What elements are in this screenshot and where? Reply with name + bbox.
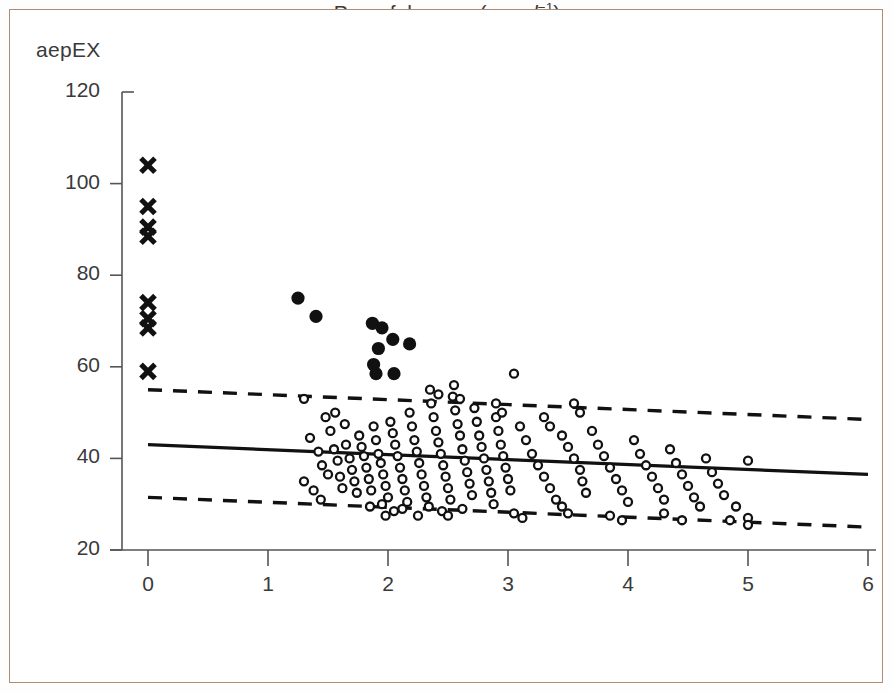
filled-circle-marker <box>291 292 304 305</box>
open-circle-marker <box>576 409 584 417</box>
open-circle-marker <box>418 470 426 478</box>
open-circle-marker <box>360 452 368 460</box>
open-circle-marker <box>487 489 495 497</box>
open-circle-marker <box>425 502 433 510</box>
open-circle-marker <box>350 477 358 485</box>
open-circle-marker <box>466 480 474 488</box>
open-circle-marker <box>324 470 332 478</box>
open-circle-marker <box>382 482 390 490</box>
filled-circle-marker <box>403 337 416 350</box>
open-circle-marker <box>485 477 493 485</box>
open-circle-marker <box>326 427 334 435</box>
open-circle-marker <box>413 448 421 456</box>
open-circle-marker <box>630 436 638 444</box>
open-circle-marker <box>497 441 505 449</box>
x-tick-label-0: 0 <box>128 572 168 596</box>
open-circle-marker <box>690 493 698 501</box>
open-circle-marker <box>379 470 387 478</box>
open-circle-marker <box>358 443 366 451</box>
cross-marker <box>141 321 155 335</box>
open-circle-marker <box>654 484 662 492</box>
open-circle-marker <box>355 432 363 440</box>
open-circle-marker <box>391 441 399 449</box>
open-circle-marker <box>365 475 373 483</box>
open-circle-marker <box>372 436 380 444</box>
open-circle-marker <box>451 406 459 414</box>
open-circle-marker <box>570 454 578 462</box>
cross-marker-points-group <box>141 158 155 378</box>
open-circle-marker <box>415 459 423 467</box>
y-tick-label-120: 120 <box>40 78 100 102</box>
open-circle-marker <box>672 459 680 467</box>
open-circle-marker <box>348 466 356 474</box>
open-circle-marker <box>473 418 481 426</box>
open-circle-marker <box>330 445 338 453</box>
open-circle-marker <box>353 489 361 497</box>
open-circle-marker <box>450 381 458 389</box>
open-circle-marker <box>475 432 483 440</box>
open-circle-marker <box>594 441 602 449</box>
open-circle-marker <box>528 450 536 458</box>
open-circle-marker <box>498 409 506 417</box>
open-circle-marker <box>442 473 450 481</box>
y-tick-label-100: 100 <box>40 170 100 194</box>
open-circle-marker <box>696 502 704 510</box>
open-circle-marker <box>377 459 385 467</box>
open-circle-marker <box>331 409 339 417</box>
figure-panel: aepEX Propofol concn (μg ml−1) 204060801… <box>0 0 894 694</box>
open-circle-marker <box>367 486 375 494</box>
open-circle-marker <box>468 491 476 499</box>
x-tick-label-6: 6 <box>848 572 888 596</box>
open-circle-marker <box>370 422 378 430</box>
open-circle-marker <box>564 509 572 517</box>
open-circle-marker <box>362 464 370 472</box>
open-circle-marker <box>456 432 464 440</box>
filled-circle-marker <box>375 321 388 334</box>
open-circle-marker <box>390 507 398 515</box>
open-circle-marker <box>732 502 740 510</box>
open-circle-marker <box>480 454 488 462</box>
tick-marks-group <box>110 184 868 566</box>
open-circle-marker <box>437 450 445 458</box>
cross-marker <box>141 229 155 243</box>
y-tick-label-80: 80 <box>40 261 100 285</box>
open-circle-marker <box>606 512 614 520</box>
filled-circle-marker <box>386 333 399 346</box>
open-circle-marker <box>642 461 650 469</box>
open-circle-marker <box>420 482 428 490</box>
open-circle-points-group <box>300 370 752 529</box>
open-circle-marker <box>546 422 554 430</box>
open-circle-marker <box>338 484 346 492</box>
open-circle-marker <box>342 441 350 449</box>
open-circle-marker <box>408 422 416 430</box>
open-circle-marker <box>317 496 325 504</box>
open-circle-marker <box>434 390 442 398</box>
open-circle-marker <box>318 461 326 469</box>
open-circle-marker <box>426 386 434 394</box>
open-circle-marker <box>482 466 490 474</box>
filled-circle-points-group <box>291 292 416 381</box>
open-circle-marker <box>458 445 466 453</box>
open-circle-marker <box>618 486 626 494</box>
open-circle-marker <box>600 452 608 460</box>
open-circle-marker <box>578 477 586 485</box>
x-tick-label-1: 1 <box>248 572 288 596</box>
open-circle-marker <box>510 509 518 517</box>
cross-marker <box>141 200 155 214</box>
open-circle-marker <box>714 480 722 488</box>
cross-marker <box>141 158 155 172</box>
open-circle-marker <box>396 464 404 472</box>
filled-circle-marker <box>387 367 400 380</box>
filled-circle-marker <box>369 367 382 380</box>
open-circle-marker <box>322 413 330 421</box>
open-circle-marker <box>648 473 656 481</box>
open-circle-marker <box>382 512 390 520</box>
open-circle-marker <box>414 512 422 520</box>
open-circle-marker <box>618 516 626 524</box>
y-tick-label-60: 60 <box>40 353 100 377</box>
open-circle-marker <box>516 422 524 430</box>
open-circle-marker <box>346 454 354 462</box>
open-circle-marker <box>410 436 418 444</box>
open-circle-marker <box>558 432 566 440</box>
cross-marker <box>141 364 155 378</box>
